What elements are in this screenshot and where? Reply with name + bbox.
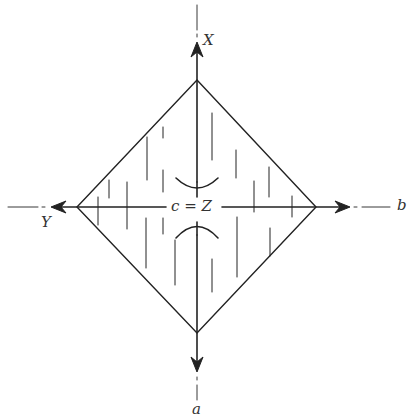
label-a: a [192,402,201,417]
label-y: Y [41,215,51,230]
label-center: c = Z [170,199,213,214]
label-b: b [397,198,407,213]
label-x: X [203,33,214,48]
